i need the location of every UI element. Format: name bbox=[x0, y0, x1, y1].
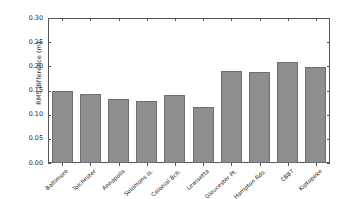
x-tick-mark bbox=[175, 163, 176, 166]
x-tick-mark-top bbox=[231, 18, 232, 21]
bar bbox=[277, 62, 298, 163]
bar bbox=[80, 94, 101, 163]
bar bbox=[305, 67, 326, 163]
y-tick-label: 0.00 bbox=[29, 159, 43, 167]
bar-series bbox=[48, 18, 330, 163]
x-tick-mark bbox=[231, 163, 232, 166]
x-tick-mark-top bbox=[260, 18, 261, 21]
x-tick-mark bbox=[316, 163, 317, 166]
y-tick-label: 0.05 bbox=[29, 134, 43, 142]
y-tick-label: 0.15 bbox=[29, 86, 43, 94]
x-tick-mark bbox=[203, 163, 204, 166]
x-tick-mark bbox=[260, 163, 261, 166]
x-tick-mark bbox=[90, 163, 91, 166]
bar bbox=[249, 72, 270, 163]
y-tick-label: 0.10 bbox=[29, 110, 43, 118]
x-tick-mark-top bbox=[316, 18, 317, 21]
x-tick-mark bbox=[119, 163, 120, 166]
x-tick-mark bbox=[62, 163, 63, 166]
bar bbox=[193, 107, 214, 163]
y-tick-mark-right bbox=[327, 163, 330, 164]
bar bbox=[164, 95, 185, 163]
x-tick-label: Baltimore bbox=[0, 168, 69, 199]
x-tick-mark-top bbox=[175, 18, 176, 21]
x-tick-mark-top bbox=[203, 18, 204, 21]
y-tick-label: 0.25 bbox=[29, 38, 43, 46]
x-tick-mark bbox=[147, 163, 148, 166]
y-tick-label: 0.30 bbox=[29, 14, 43, 22]
x-tick-mark-top bbox=[90, 18, 91, 21]
bar bbox=[52, 91, 73, 163]
x-tick-mark-top bbox=[288, 18, 289, 21]
bar bbox=[108, 99, 129, 163]
x-tick-mark bbox=[288, 163, 289, 166]
y-axis-title: RMS difference (m) bbox=[35, 0, 47, 145]
bar bbox=[136, 101, 157, 163]
x-tick-mark-top bbox=[119, 18, 120, 21]
bar bbox=[221, 71, 242, 163]
x-tick-mark-top bbox=[62, 18, 63, 21]
chart-figure: RMS difference (m) 0.000.050.100.150.200… bbox=[0, 0, 345, 199]
y-tick-mark bbox=[48, 163, 51, 164]
x-tick-mark-top bbox=[147, 18, 148, 21]
y-tick-label: 0.20 bbox=[29, 62, 43, 70]
